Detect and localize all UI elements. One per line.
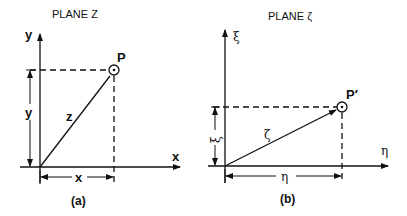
panel-a: PLANE Z y x P z y x (a) <box>20 8 180 208</box>
eta-axis-label: η <box>381 144 388 158</box>
panel-b: PLANE ζ ξ η P′ ζ ξ η (b) <box>208 10 388 206</box>
panel-a-title: PLANE Z <box>52 8 98 20</box>
dim-xi-label: ξ <box>209 136 223 143</box>
vector-z-label: z <box>66 109 73 124</box>
panel-a-caption: (a) <box>71 194 86 208</box>
vector-zeta-label: ζ <box>264 128 271 142</box>
point-p-dot <box>113 69 116 72</box>
x-axis-label: x <box>172 149 180 164</box>
vector-zeta <box>225 110 336 166</box>
dim-x-label: x <box>75 170 83 185</box>
panel-b-caption: (b) <box>280 192 295 206</box>
y-axis-label: y <box>25 27 33 42</box>
conformal-mapping-diagram: PLANE Z y x P z y x (a) PLANE ζ ξ <box>0 0 407 216</box>
dim-y-label: y <box>25 105 33 120</box>
dim-eta-label: η <box>281 170 288 184</box>
point-p-label: P <box>117 50 126 65</box>
point-p-prime-label: P′ <box>346 87 358 102</box>
vector-z <box>40 76 110 167</box>
point-p-prime-dot <box>341 106 344 109</box>
xi-axis-label: ξ <box>233 30 240 44</box>
panel-b-title: PLANE ζ <box>268 10 312 22</box>
